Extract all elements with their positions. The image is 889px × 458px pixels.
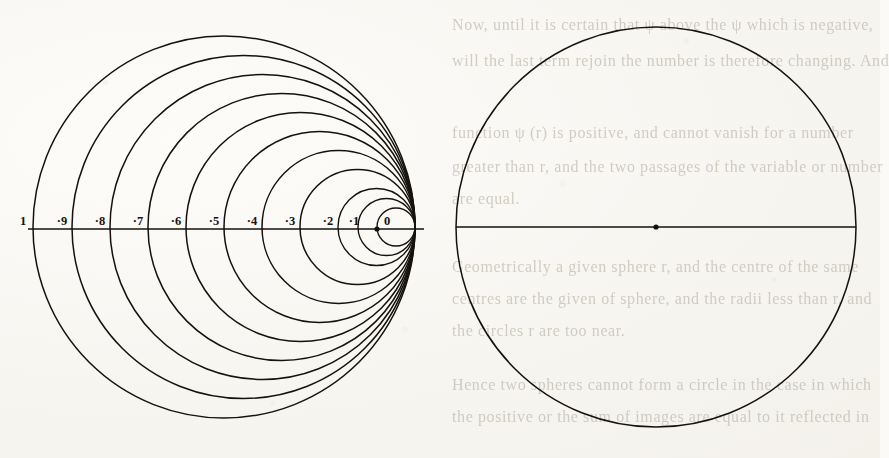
tick-label: ·7 [133, 214, 143, 228]
tick-label: ·1 [349, 214, 359, 228]
tick-label: ·4 [247, 214, 258, 228]
tick-label: ·8 [95, 214, 105, 228]
tick-label: ·2 [323, 214, 333, 228]
plain-circle-group [456, 27, 856, 427]
coaxial-circle [148, 94, 415, 361]
tick-label: ·3 [285, 214, 295, 228]
tick-label: 0 [384, 214, 390, 228]
right-center-dot [653, 224, 658, 229]
tick-label: 1 [20, 214, 26, 228]
left-center-dot [374, 226, 379, 231]
tick-label: ·6 [171, 214, 181, 228]
coaxial-circle [72, 56, 415, 399]
coaxial-circle [377, 208, 415, 246]
tick-label: ·5 [209, 214, 219, 228]
tick-label: ·9 [57, 214, 67, 228]
left-axis-group [28, 226, 424, 231]
left-tick-labels: 1·9·8·7·6·5·4·3·2·10 [20, 214, 390, 228]
